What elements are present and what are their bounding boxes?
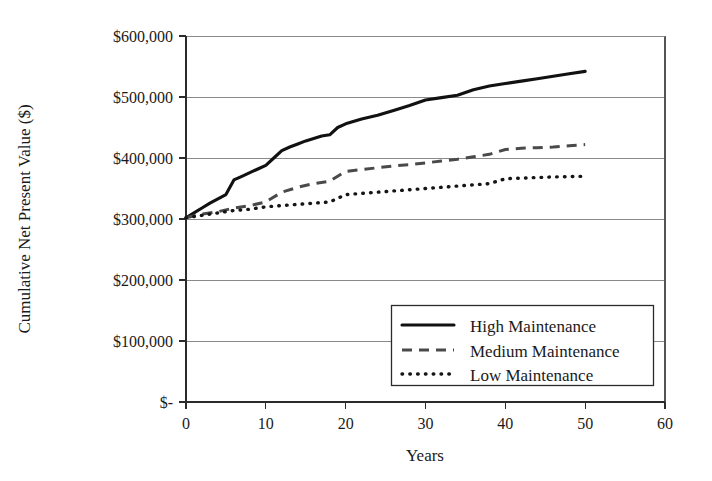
x-tick-label: 40 xyxy=(497,415,513,432)
y-tick-label: $400,000 xyxy=(113,150,173,167)
x-tick-label: 60 xyxy=(657,415,673,432)
x-tick-label: 30 xyxy=(418,415,434,432)
y-axis-title: Cumulative Net Present Value ($) xyxy=(15,104,34,333)
x-tick-labels-group: 0102030405060 xyxy=(182,415,673,432)
y-tick-label: $200,000 xyxy=(113,272,173,289)
x-tick-label: 10 xyxy=(258,415,274,432)
y-tick-label: $600,000 xyxy=(113,28,173,45)
y-tick-label: $100,000 xyxy=(113,333,173,350)
y-tick-label: $300,000 xyxy=(113,211,173,228)
y-tick-label: $500,000 xyxy=(113,89,173,106)
legend-label: Medium Maintenance xyxy=(470,342,620,361)
chart-figure: $-$100,000$200,000$300,000$400,000$500,0… xyxy=(0,0,712,481)
x-tick-label: 0 xyxy=(182,415,190,432)
x-tick-label: 20 xyxy=(338,415,354,432)
y-tick-label: $- xyxy=(160,394,173,411)
legend-label: High Maintenance xyxy=(470,317,596,336)
chart-legend: High MaintenanceMedium MaintenanceLow Ma… xyxy=(392,306,654,386)
cumulative-npv-line-chart: $-$100,000$200,000$300,000$400,000$500,0… xyxy=(0,0,712,481)
legend-label: Low Maintenance xyxy=(470,366,593,385)
x-tick-label: 50 xyxy=(577,415,593,432)
x-axis-title: Years xyxy=(406,446,444,465)
y-tick-labels-group: $-$100,000$200,000$300,000$400,000$500,0… xyxy=(113,28,173,411)
